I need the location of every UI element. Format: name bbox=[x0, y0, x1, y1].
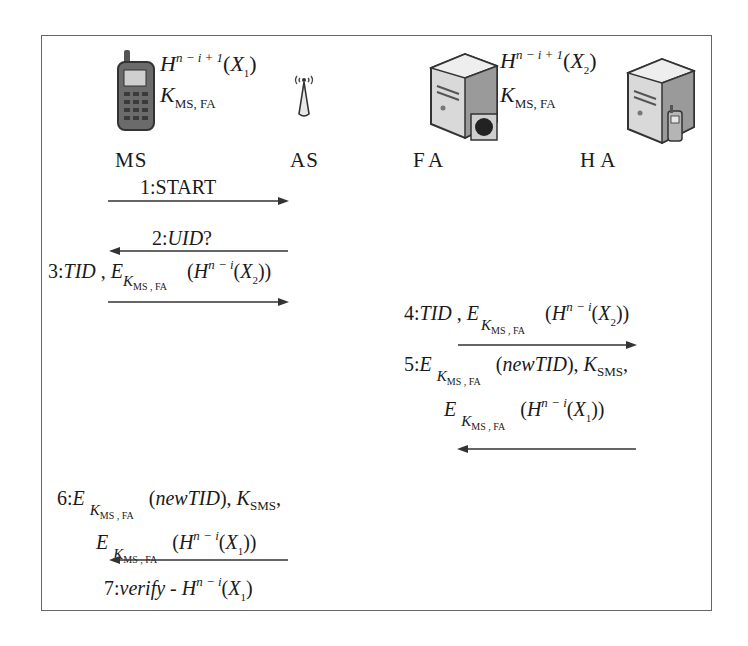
entity-label-ha: HA bbox=[580, 148, 620, 173]
arrow-right-ms-to-as-2 bbox=[108, 297, 290, 307]
fa-hash-value: Hn − i + 1(X2) bbox=[500, 47, 597, 76]
arrow-left-as-to-ms-2 bbox=[108, 555, 290, 565]
mobile-phone-icon bbox=[116, 50, 158, 136]
arrow-right-as-to-fa bbox=[458, 340, 638, 350]
message-5-line-1: 5:E KMS , FA (newTID), KSMS, bbox=[404, 353, 628, 387]
entity-label-as: AS bbox=[290, 148, 319, 173]
ms-shared-key: KMS, FA bbox=[160, 82, 216, 112]
server-with-phone-icon bbox=[622, 55, 698, 151]
arrow-left-fa-to-as bbox=[456, 444, 638, 454]
arrow-right-ms-to-as bbox=[108, 196, 290, 206]
message-5-line-2: E KMS , FA (Hn − i(X1)) bbox=[444, 395, 604, 432]
ms-hash-value: Hn − i + 1(X1) bbox=[160, 50, 257, 79]
message-4-label: 4:TID , EKMS , FA (Hn − i(X2)) bbox=[404, 299, 629, 336]
message-6-line-1: 6:E KMS , FA (newTID), KSMS, bbox=[57, 487, 281, 521]
server-icon bbox=[425, 50, 501, 146]
entity-label-ms: MS bbox=[115, 148, 147, 173]
entity-label-fa: FA bbox=[413, 148, 448, 173]
message-7-label: 7:verify - Hn − i(X1) bbox=[104, 574, 253, 603]
arrow-left-as-to-ms bbox=[108, 246, 290, 256]
fa-shared-key: KMS, FA bbox=[500, 82, 556, 112]
antenna-icon bbox=[293, 70, 315, 124]
message-3-label: 3:TID , EKMS , FA (Hn − i(X2)) bbox=[48, 257, 271, 292]
